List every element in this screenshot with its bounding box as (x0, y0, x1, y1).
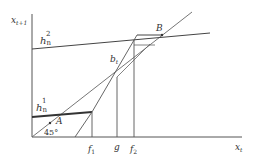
h2-label: hn2 (40, 30, 51, 47)
g-tick-label: g (114, 142, 120, 152)
point-B-label: B (155, 23, 163, 33)
diagram-canvas: xt+1 xt hn2 hn1 bt A B 45° f1 g f2 (0, 0, 257, 160)
b-line (92, 35, 137, 112)
y-axis-label: xt+1 (11, 15, 27, 26)
h2-line (32, 33, 210, 49)
point-A (49, 122, 51, 124)
angle-label: 45° (44, 128, 58, 137)
f2-tick-label: f2 (129, 144, 137, 155)
point-A-label: A (55, 116, 63, 126)
bt-label: bt (110, 54, 119, 65)
point-B (161, 34, 163, 36)
x-axis-label: xt (235, 142, 243, 153)
h1-label: hn1 (36, 97, 47, 114)
f1-tick-label: f1 (87, 144, 95, 155)
b-line-lower (75, 112, 92, 137)
